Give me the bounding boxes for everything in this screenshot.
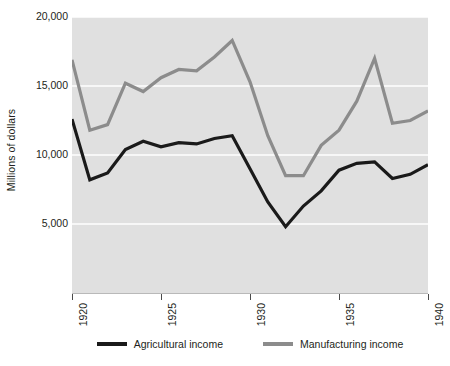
y-tick-label-15000: 15,000	[6, 80, 68, 91]
chart-legend: Agricultural incomeManufacturing income	[72, 334, 428, 354]
x-tick-mark-1920	[72, 294, 73, 300]
x-axis-line	[72, 293, 428, 294]
legend-swatch-agricultural	[97, 342, 127, 346]
legend-label-manufacturing-income: Manufacturing income	[300, 338, 403, 350]
x-tick-mark-1925	[161, 294, 162, 300]
plot-area	[72, 17, 428, 293]
y-tick-label-5000: 5,000	[6, 218, 68, 229]
legend-item-agricultural-income[interactable]: Agricultural income	[97, 338, 223, 350]
legend-item-manufacturing-income[interactable]: Manufacturing income	[263, 338, 403, 350]
line-chart-figure: Millions of dollars 5,00010,00015,00020,…	[0, 0, 450, 366]
y-axis-tick-labels: 5,00010,00015,00020,000	[0, 0, 68, 300]
x-tick-label-1925: 1925	[166, 303, 178, 326]
legend-swatch-manufacturing	[263, 342, 293, 346]
series-line-agricultural-income	[72, 119, 428, 227]
y-tick-label-20000: 20,000	[6, 11, 68, 22]
x-tick-label-1930: 1930	[255, 303, 267, 326]
x-tick-mark-1935	[339, 294, 340, 300]
x-tick-mark-1930	[250, 294, 251, 300]
x-tick-label-1940: 1940	[433, 303, 445, 326]
legend-label-agricultural-income: Agricultural income	[134, 338, 223, 350]
x-tick-mark-1940	[428, 294, 429, 300]
plot-svg	[72, 17, 428, 293]
x-tick-label-1935: 1935	[344, 303, 356, 326]
x-tick-label-1920: 1920	[77, 303, 89, 326]
y-tick-label-10000: 10,000	[6, 149, 68, 160]
